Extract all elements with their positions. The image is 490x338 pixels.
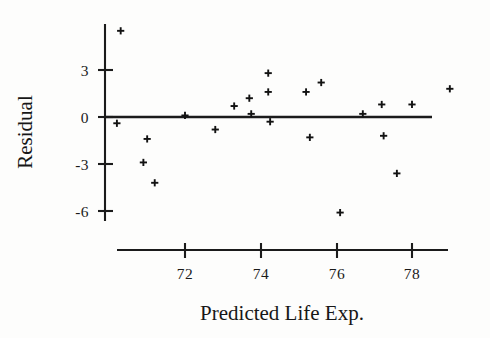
y-tick-label-neg6: -6 [75,203,89,220]
data-point-marker [117,27,124,34]
data-point-marker [393,170,400,177]
data-point-marker [246,95,253,102]
data-point-marker [408,101,415,108]
data-point-marker [151,179,158,186]
data-point-marker [113,120,120,127]
data-point-marker [144,135,151,142]
data-point-marker [380,132,387,139]
data-point-marker [302,88,309,95]
data-point-marker [212,126,219,133]
data-point-marker [318,79,325,86]
x-tick-label-74: 74 [253,265,269,282]
x-tick-label-76: 76 [329,265,345,282]
data-point-marker [140,159,147,166]
y-tick-label-0: 0 [81,109,89,126]
y-tick-label-3: 3 [81,62,89,79]
data-point-marker [446,85,453,92]
scatter-markers-group [113,27,453,216]
data-point-marker [231,102,238,109]
y-axis-title: Residual [13,95,37,169]
data-point-marker [267,118,274,125]
data-point-marker [337,209,344,216]
data-point-marker [265,88,272,95]
data-point-marker [378,101,385,108]
x-tick-label-78: 78 [404,265,420,282]
data-point-marker [306,134,313,141]
x-tick-label-72: 72 [177,265,193,282]
y-tick-label-neg3: -3 [75,156,89,173]
x-axis-title: Predicted Life Exp. [200,301,364,325]
data-point-marker [265,70,272,77]
residual-plot-canvas: 3 0 -3 -6 72 74 76 78 Predicted Life Exp… [0,0,490,338]
residual-scatter-figure: 3 0 -3 -6 72 74 76 78 Predicted Life Exp… [0,0,490,338]
